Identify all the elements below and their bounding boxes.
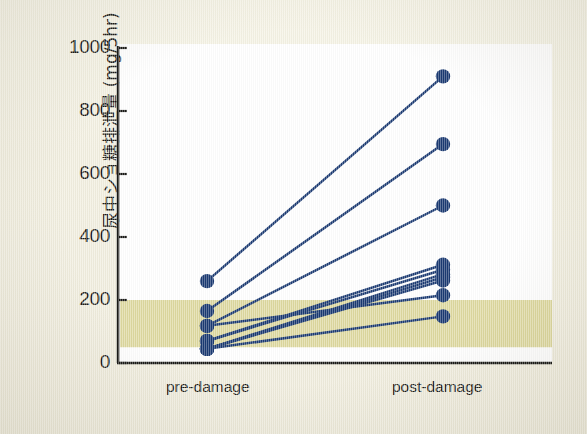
xtick-label-post-damage: post-damage [392,378,482,396]
data-point-1-pre-damage [200,274,214,288]
series-line-1 [207,76,443,281]
data-point-2-pre-damage [200,304,214,318]
xtick-label-pre-damage: pre-damage [166,378,250,396]
data-point-3-post-damage [436,198,450,212]
data-point-2-post-damage [436,137,450,151]
figure-root: 02004006008001000 pre-damage post-damage… [0,0,587,434]
data-point-9-pre-damage [200,319,214,333]
data-point-10-pre-damage [200,342,214,356]
data-point-8-post-damage [436,273,450,287]
data-point-9-post-damage [436,288,450,302]
y-axis-label: 尿中ショ糖排泄量 (mg/5hr) [97,6,122,236]
y-tick-label-0: 0 [28,351,110,373]
y-tick-label-200: 200 [28,288,110,310]
data-point-1-post-damage [436,69,450,83]
data-point-10-post-damage [436,309,450,323]
